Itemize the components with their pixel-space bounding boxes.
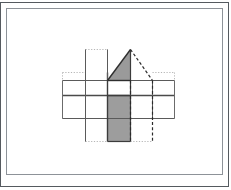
- net-diagram-svg: [0, 0, 231, 190]
- screenshot-stage: [0, 0, 231, 190]
- figure-canvas: [0, 0, 231, 190]
- roof-right-slope-dashed: [131, 50, 153, 81]
